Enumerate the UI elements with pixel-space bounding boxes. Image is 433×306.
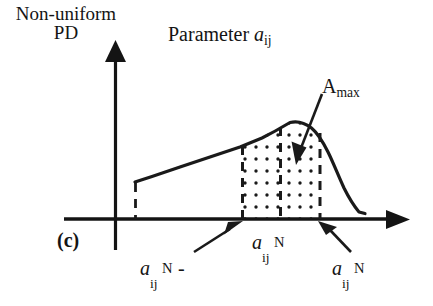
chart-title: Parameter aij [168,24,272,48]
x-label-a-nominal: aijN [252,232,262,252]
x-axis-arrowhead [386,210,410,229]
x-label-a-plus-variable: a [332,257,342,279]
chart-title-text: Parameter [168,23,249,45]
y-axis-label-line2: PD [6,23,126,42]
amax-base: A [322,75,336,97]
y-axis-label-line1: Non-uniform [16,3,116,24]
x-label-a-plus-subscript: ij [342,277,350,291]
x-label-a-minus-superscript: N [162,261,172,276]
x-label-a-plus: aijN [332,258,342,278]
panel-letter: (c) [57,230,79,250]
amax-subscript: max [336,85,359,100]
axes-group [64,40,410,250]
x-label-a-nominal-subscript: ij [262,251,270,265]
figure-container: Non-uniform PD Parameter aij Amax (c) ai… [0,0,433,306]
x-label-a-plus-superscript: N [354,261,364,276]
x-label-a-minus-suffix: - [176,257,185,279]
shaded-band-right [280,122,320,219]
x-label-a-minus: aijN- [140,258,185,278]
x-label-a-nominal-variable: a [252,231,262,253]
x-label-a-minus-subscript: ij [150,277,158,291]
shaded-band-group [242,122,320,219]
chart-title-variable: a [254,23,264,45]
y-axis-arrowhead [105,40,126,62]
x-label-a-minus-variable: a [140,257,150,279]
amax-annotation-label: Amax [322,76,360,100]
right-label-leader-line [330,230,351,252]
chart-title-subscript: ij [264,33,272,48]
left-label-leader-line [194,229,230,252]
y-axis-label: Non-uniform PD [6,4,126,43]
x-label-a-nominal-superscript: N [274,235,284,250]
shaded-band-left [242,127,280,219]
